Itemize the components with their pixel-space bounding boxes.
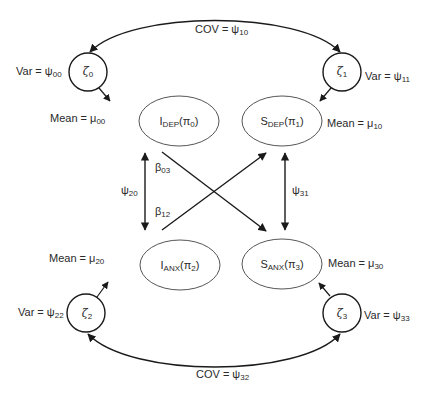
i-dep-label: IDEP(π0): [160, 115, 199, 129]
variance-label-zeta0: Var = ψ00: [16, 65, 62, 81]
s-anx-label: SANX(π3): [260, 258, 303, 272]
covariance-arc-bottom: [88, 334, 340, 367]
zeta0-symbol: ζ0: [83, 65, 93, 79]
mean-label-s-dep: Mean = μ10: [327, 117, 382, 133]
s-dep-label: SDEP(π1): [260, 115, 303, 129]
variance-label-zeta3: Var = ψ33: [364, 309, 410, 325]
arrow-zeta0-to-idep: [99, 88, 110, 101]
zeta3-symbol: ζ3: [337, 307, 347, 321]
covariance-label-top: COV = ψ10: [195, 23, 248, 39]
variance-label-zeta2: Var = ψ22: [18, 306, 64, 322]
arrow-zeta1-to-sdep: [320, 88, 331, 101]
path-label-psi20: ψ20: [121, 184, 138, 200]
covariance-label-bottom: COV = ψ32: [196, 368, 249, 384]
arrow-zeta3-to-sanx: [319, 283, 330, 296]
zeta2-symbol: ζ2: [82, 307, 92, 321]
path-diagram: [0, 0, 425, 395]
zeta1-symbol: ζ1: [337, 65, 347, 79]
i-anx-label: IANX(π2): [161, 259, 200, 273]
path-label-psi31: ψ31: [292, 184, 309, 200]
mean-label-i-anx: Mean = μ20: [49, 252, 104, 268]
arrow-zeta2-to-ianx: [97, 282, 108, 297]
path-label-beta03: β03: [155, 161, 170, 177]
mean-label-s-anx: Mean = μ30: [328, 257, 383, 273]
mean-label-i-dep: Mean = μ00: [50, 112, 105, 128]
path-label-beta12: β12: [155, 205, 170, 221]
variance-label-zeta1: Var = ψ11: [365, 70, 410, 86]
